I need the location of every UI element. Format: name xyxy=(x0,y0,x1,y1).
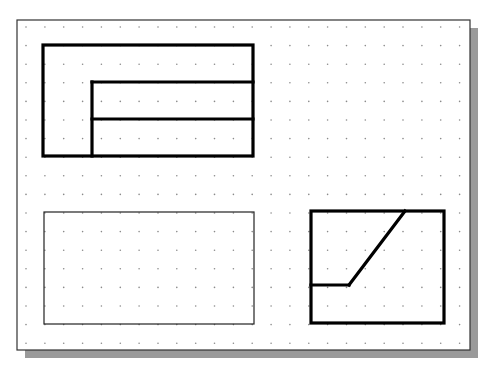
grid-dot xyxy=(270,156,272,158)
grid-dot xyxy=(157,194,159,196)
grid-dot xyxy=(214,231,216,233)
grid-dot xyxy=(270,268,272,270)
grid-dot xyxy=(421,175,423,177)
grid-dot xyxy=(120,194,122,196)
grid-dot xyxy=(138,175,140,177)
grid-dot xyxy=(289,249,291,251)
grid-dot xyxy=(289,305,291,307)
grid-dot xyxy=(157,305,159,307)
grid-dot xyxy=(233,305,235,307)
grid-dot xyxy=(270,342,272,344)
grid-dot xyxy=(327,287,329,289)
grid-dot xyxy=(270,175,272,177)
grid-dot xyxy=(251,175,253,177)
grid-dot xyxy=(459,268,461,270)
grid-dot xyxy=(82,63,84,65)
grid-dot xyxy=(346,26,348,28)
grid-dot xyxy=(327,194,329,196)
grid-dot xyxy=(82,119,84,121)
grid-dot xyxy=(459,138,461,140)
grid-dot xyxy=(402,45,404,47)
grid-dot xyxy=(101,26,103,28)
grid-dot xyxy=(214,342,216,344)
grid-dot xyxy=(101,63,103,65)
grid-dot xyxy=(120,342,122,344)
grid-dot xyxy=(82,101,84,103)
grid-dot xyxy=(308,26,310,28)
grid-dot xyxy=(214,138,216,140)
grid-dot xyxy=(289,119,291,121)
grid-dot xyxy=(365,82,367,84)
grid-dot xyxy=(327,63,329,65)
grid-dot xyxy=(440,268,442,270)
grid-dot xyxy=(421,268,423,270)
grid-dot xyxy=(44,175,46,177)
grid-dot xyxy=(120,138,122,140)
grid-dot xyxy=(289,101,291,103)
grid-dot xyxy=(176,194,178,196)
grid-dot xyxy=(459,324,461,326)
grid-dot xyxy=(233,63,235,65)
grid-dot xyxy=(289,342,291,344)
grid-dot xyxy=(63,119,65,121)
grid-dot xyxy=(176,287,178,289)
grid-dot xyxy=(195,249,197,251)
grid-dot xyxy=(233,101,235,103)
grid-dot xyxy=(459,231,461,233)
grid-dot xyxy=(459,249,461,251)
grid-dot xyxy=(346,194,348,196)
grid-dot xyxy=(120,305,122,307)
grid-dot xyxy=(270,249,272,251)
grid-dot xyxy=(346,101,348,103)
grid-dot xyxy=(289,82,291,84)
grid-dot xyxy=(383,119,385,121)
grid-dot xyxy=(176,305,178,307)
grid-dot xyxy=(459,119,461,121)
grid-dot xyxy=(459,82,461,84)
grid-dot xyxy=(195,342,197,344)
grid-dot xyxy=(308,101,310,103)
grid-dot xyxy=(327,101,329,103)
grid-dot xyxy=(383,138,385,140)
grid-dot xyxy=(233,287,235,289)
grid-dot xyxy=(233,138,235,140)
grid-dot xyxy=(157,249,159,251)
grid-dot xyxy=(251,342,253,344)
grid-dot xyxy=(327,342,329,344)
grid-dot xyxy=(308,194,310,196)
grid-dot xyxy=(195,305,197,307)
grid-dot xyxy=(176,342,178,344)
grid-dot xyxy=(346,287,348,289)
grid-dot xyxy=(82,194,84,196)
grid-dot xyxy=(383,231,385,233)
grid-dot xyxy=(365,26,367,28)
grid-dot xyxy=(365,231,367,233)
grid-dot xyxy=(308,342,310,344)
grid-dot xyxy=(308,287,310,289)
grid-dot xyxy=(63,63,65,65)
grid-dot xyxy=(308,45,310,47)
grid-dot xyxy=(346,63,348,65)
grid-dot xyxy=(440,63,442,65)
grid-dot xyxy=(346,138,348,140)
grid-dot xyxy=(63,249,65,251)
grid-dot xyxy=(176,268,178,270)
grid-dot xyxy=(327,45,329,47)
grid-dot xyxy=(421,231,423,233)
grid-dot xyxy=(157,342,159,344)
grid-dot xyxy=(289,63,291,65)
grid-dot xyxy=(138,249,140,251)
grid-dot xyxy=(82,138,84,140)
grid-dot xyxy=(402,342,404,344)
grid-dot xyxy=(346,45,348,47)
grid-dot xyxy=(25,231,27,233)
grid-dot xyxy=(308,82,310,84)
grid-dot xyxy=(63,26,65,28)
grid-dot xyxy=(233,175,235,177)
grid-dot xyxy=(82,268,84,270)
grid-dot xyxy=(63,342,65,344)
grid-dot xyxy=(82,249,84,251)
grid-dot xyxy=(63,231,65,233)
grid-dot xyxy=(402,156,404,158)
grid-dot xyxy=(138,138,140,140)
